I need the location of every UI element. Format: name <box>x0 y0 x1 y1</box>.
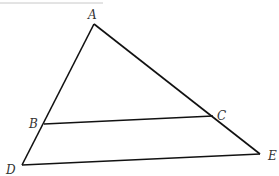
geometry-diagram: A B C D E <box>0 0 279 176</box>
label-E: E <box>267 149 277 163</box>
label-B: B <box>28 117 38 131</box>
segment-DE <box>22 154 260 165</box>
segment-AE <box>94 24 260 154</box>
label-D: D <box>5 163 16 176</box>
label-C: C <box>217 109 226 123</box>
label-A: A <box>87 8 97 22</box>
segment-BC <box>44 116 213 124</box>
segment-AD <box>22 24 94 165</box>
